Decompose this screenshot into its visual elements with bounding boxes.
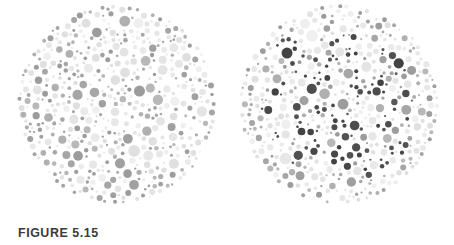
right-plate-container [0, 0, 454, 245]
right-plate-dots [0, 0, 454, 245]
figure-container: FIGURE 5.15 [0, 0, 454, 245]
figure-caption: FIGURE 5.15 [18, 225, 99, 240]
